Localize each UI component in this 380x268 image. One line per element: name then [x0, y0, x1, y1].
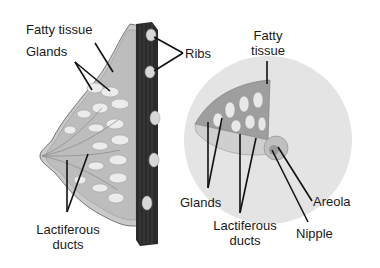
label-fatty-tissue-right: Fatty tissue	[244, 28, 292, 58]
label-ribs: Ribs	[185, 46, 211, 61]
label-fatty-tissue-left: Fatty tissue	[26, 22, 92, 37]
label-glands-left: Glands	[26, 44, 67, 59]
chest-wall-muscle	[136, 22, 158, 246]
label-areola: Areola	[313, 194, 351, 209]
label-glands-right: Glands	[180, 195, 221, 210]
label-lactiferous-ducts-right: Lactiferous ducts	[200, 218, 290, 248]
label-nipple: Nipple	[296, 226, 333, 241]
label-lactiferous-ducts-left: Lactiferous ducts	[24, 222, 112, 252]
